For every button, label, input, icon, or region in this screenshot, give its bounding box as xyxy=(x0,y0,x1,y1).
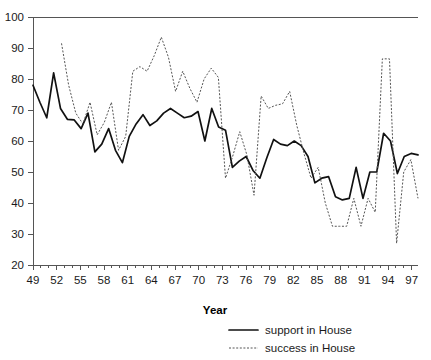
y-tick-label: 30 xyxy=(11,228,24,240)
x-axis-tick-labels: 4952555861646770737679828588919497 xyxy=(27,274,418,286)
y-tick-label: 40 xyxy=(11,197,24,209)
y-tick-label: 70 xyxy=(11,104,24,116)
x-tick-label: 61 xyxy=(121,274,134,286)
x-tick-label: 55 xyxy=(74,274,87,286)
x-tick-label: 97 xyxy=(405,274,418,286)
x-tick-label: 52 xyxy=(50,274,63,286)
x-tick-label: 58 xyxy=(98,274,111,286)
x-tick-label: 85 xyxy=(311,274,324,286)
y-tick-label: 80 xyxy=(11,73,24,85)
line-chart: 2030405060708090100 49525558616467707376… xyxy=(0,0,431,360)
x-tick-label: 76 xyxy=(240,274,253,286)
legend-label-support-in-house: support in House xyxy=(265,324,352,336)
x-tick-label: 64 xyxy=(145,274,158,286)
x-axis-title: Year xyxy=(203,304,228,316)
x-tick-label: 70 xyxy=(192,274,205,286)
x-tick-label: 91 xyxy=(358,274,371,286)
y-tick-label: 20 xyxy=(11,259,24,271)
chart-canvas: 2030405060708090100 49525558616467707376… xyxy=(0,0,431,360)
x-tick-label: 82 xyxy=(287,274,300,286)
x-tick-label: 49 xyxy=(27,274,40,286)
x-tick-label: 67 xyxy=(169,274,182,286)
y-tick-label: 90 xyxy=(11,42,24,54)
x-tick-label: 79 xyxy=(263,274,276,286)
y-tick-label: 60 xyxy=(11,135,24,147)
y-tick-label: 50 xyxy=(11,166,24,178)
legend-label-success-in-house: success in House xyxy=(265,342,355,354)
x-tick-label: 73 xyxy=(216,274,229,286)
x-tick-label: 94 xyxy=(382,274,395,286)
y-tick-label: 100 xyxy=(5,11,24,23)
x-tick-label: 88 xyxy=(334,274,347,286)
